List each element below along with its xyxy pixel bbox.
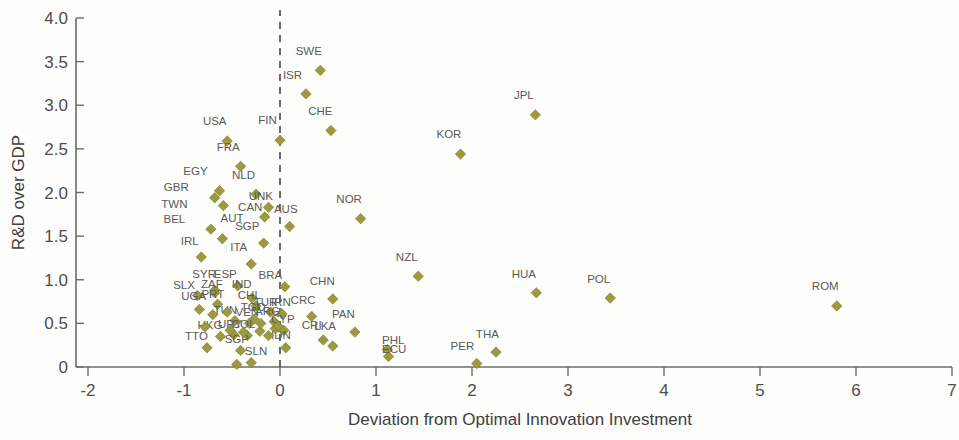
data-point-label: UGA (181, 290, 206, 302)
data-point-marker (281, 343, 291, 353)
data-point-label: TGO (241, 301, 266, 313)
data-point-label: NOR (336, 193, 362, 205)
data-point-marker (355, 213, 365, 223)
x-tick-label: 3 (563, 381, 572, 400)
data-point-marker (318, 335, 328, 345)
data-point-marker (326, 125, 336, 135)
data-point-marker (455, 149, 465, 159)
data-point-label: HUA (512, 268, 537, 280)
data-point-marker (315, 65, 325, 75)
data-point-label: ECU (382, 343, 406, 355)
x-tick-label: 7 (947, 381, 956, 400)
y-tick-label: 3.5 (44, 53, 68, 72)
x-tick-label: -1 (176, 381, 191, 400)
data-point-label: JPL (514, 89, 534, 101)
data-point-label: BRA (259, 269, 283, 281)
y-tick-label: 1.5 (44, 227, 68, 246)
data-point-marker (275, 135, 285, 145)
x-tick-label: 0 (275, 381, 284, 400)
data-point-marker (258, 238, 268, 248)
data-point-marker (259, 212, 269, 222)
data-point-marker (413, 271, 423, 281)
data-point-marker (218, 200, 228, 210)
data-point-marker (491, 347, 501, 357)
data-point-marker (280, 282, 290, 292)
x-tick-label: 1 (371, 381, 380, 400)
x-tick-label: -2 (80, 381, 95, 400)
data-point-label: CAN (238, 201, 262, 213)
data-point-label: TWN (161, 198, 187, 210)
x-tick-label: 2 (467, 381, 476, 400)
data-point-label: EGY (183, 165, 208, 177)
scatter-chart-figure: -2-10123456700.51.01.52.02.53.03.54.0Dev… (0, 0, 959, 440)
y-tick-label: 0 (59, 358, 68, 377)
data-point-label: PER (451, 340, 475, 352)
data-point-label: ISR (283, 69, 302, 81)
data-point-marker (232, 359, 242, 369)
data-point-label: SWE (296, 45, 323, 57)
data-point-label: THA (476, 328, 499, 340)
data-point-label: NLD (232, 169, 255, 181)
y-tick-label: 0.5 (44, 314, 68, 333)
data-point-marker (246, 259, 256, 269)
data-point-label: CHN (310, 275, 335, 287)
data-point-marker (301, 89, 311, 99)
data-point-marker (832, 301, 842, 311)
data-point-marker (196, 252, 206, 262)
data-point-marker (284, 221, 294, 231)
y-tick-label: 2.0 (44, 184, 68, 203)
x-tick-label: 6 (851, 381, 860, 400)
data-point-marker (328, 294, 338, 304)
data-point-label: KOR (436, 128, 461, 140)
data-point-label: FRA (217, 141, 240, 153)
data-point-marker (531, 288, 541, 298)
data-point-marker (530, 110, 540, 120)
data-point-label: USA (203, 115, 227, 127)
data-point-label: CRC (291, 294, 316, 306)
y-tick-label: 2.5 (44, 140, 68, 159)
data-point-label: ROM (812, 280, 839, 292)
data-point-marker (605, 293, 615, 303)
y-tick-label: 4.0 (44, 9, 68, 28)
x-axis-title: Deviation from Optimal Innovation Invest… (348, 410, 692, 429)
y-tick-label: 3.0 (44, 96, 68, 115)
data-point-label: IRL (181, 235, 200, 247)
x-tick-label: 5 (755, 381, 764, 400)
data-point-marker (202, 343, 212, 353)
data-point-marker (217, 234, 227, 244)
plot-area: -2-10123456700.51.01.52.02.53.03.54.0Dev… (0, 0, 959, 440)
data-point-label: SLN (245, 345, 267, 357)
data-point-marker (328, 341, 338, 351)
data-point-label: HKG (197, 319, 222, 331)
data-point-label: CHE (308, 105, 333, 117)
y-tick-label: 1.0 (44, 271, 68, 290)
data-point-label: GBR (164, 181, 189, 193)
data-point-label: BEL (164, 213, 186, 225)
data-point-label: LKA (314, 320, 336, 332)
x-tick-label: 4 (659, 381, 668, 400)
data-point-marker (350, 327, 360, 337)
data-point-marker (206, 224, 216, 234)
data-point-label: POL (587, 273, 611, 285)
data-point-label: FIN (258, 114, 277, 126)
data-point-label: SGP (235, 220, 260, 232)
data-point-label: PAN (332, 308, 355, 320)
data-point-label: ITA (230, 241, 247, 253)
data-point-marker (263, 202, 273, 212)
data-point-label: NZL (396, 251, 418, 263)
data-point-label: AUS (274, 203, 298, 215)
y-axis-title: R&D over GDP (9, 135, 28, 250)
data-point-marker (194, 304, 204, 314)
